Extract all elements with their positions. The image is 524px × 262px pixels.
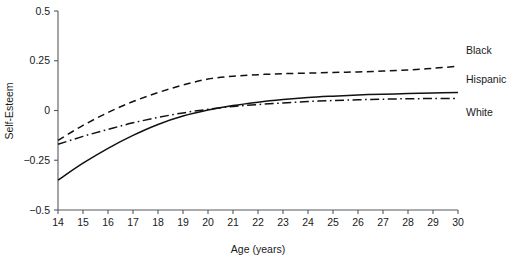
x-axis: 1415161718192021222324252627282930 xyxy=(52,210,464,228)
x-tick-label: 14 xyxy=(52,216,64,228)
y-axis-ticks xyxy=(54,11,58,210)
x-tick-label: 26 xyxy=(352,216,364,228)
x-tick-label: 22 xyxy=(252,216,264,228)
x-axis-title: Age (years) xyxy=(231,243,285,255)
x-tick-label: 30 xyxy=(452,216,464,228)
x-tick-label: 27 xyxy=(377,216,389,228)
y-tick-label: −0.5 xyxy=(29,204,50,216)
x-tick-label: 18 xyxy=(152,216,164,228)
x-tick-label: 29 xyxy=(427,216,439,228)
y-axis: −0.5−0.2500.250.5 xyxy=(23,5,58,216)
self-esteem-by-age-chart: −0.5−0.2500.250.5 1415161718192021222324… xyxy=(0,0,524,262)
series-label-hispanic: Hispanic xyxy=(466,73,506,85)
y-axis-title: Self-Esteem xyxy=(3,82,15,139)
x-axis-ticks xyxy=(58,210,458,214)
series-line-white xyxy=(58,99,458,145)
x-tick-label: 21 xyxy=(227,216,239,228)
series-label-white: White xyxy=(466,106,493,118)
x-tick-label: 24 xyxy=(302,216,314,228)
series-line-black xyxy=(58,66,458,140)
series-line-hispanic xyxy=(58,93,458,181)
y-tick-label: 0.5 xyxy=(35,5,50,17)
y-tick-label: 0 xyxy=(44,104,50,116)
y-tick-label: −0.25 xyxy=(23,154,50,166)
x-tick-label: 16 xyxy=(102,216,114,228)
x-tick-label: 23 xyxy=(277,216,289,228)
series-inline-labels: BlackHispanicWhite xyxy=(466,44,506,117)
x-tick-label: 15 xyxy=(77,216,89,228)
x-tick-label: 19 xyxy=(177,216,189,228)
x-axis-tick-labels: 1415161718192021222324252627282930 xyxy=(52,216,464,228)
series-label-black: Black xyxy=(466,44,492,56)
x-tick-label: 20 xyxy=(202,216,214,228)
x-tick-label: 28 xyxy=(402,216,414,228)
x-tick-label: 17 xyxy=(127,216,139,228)
chart-canvas: −0.5−0.2500.250.5 1415161718192021222324… xyxy=(0,0,524,262)
series-curves xyxy=(58,66,458,180)
y-axis-tick-labels: −0.5−0.2500.250.5 xyxy=(23,5,50,216)
y-tick-label: 0.25 xyxy=(30,54,51,66)
x-tick-label: 25 xyxy=(327,216,339,228)
